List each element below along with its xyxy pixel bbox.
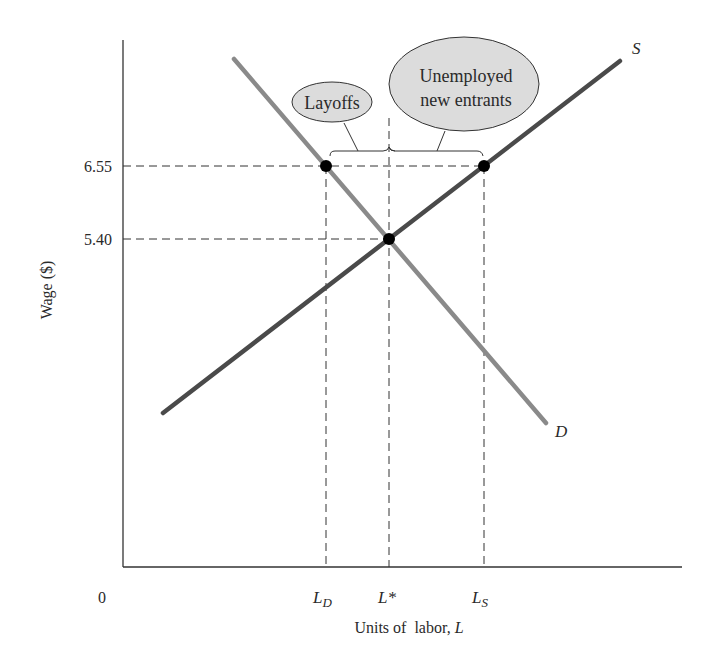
- x-axis-label-var: L: [454, 619, 464, 636]
- demand-label: D: [554, 422, 568, 441]
- x-tick-LS: LS: [471, 588, 488, 610]
- unemployed-label-line1: Unemployed: [420, 66, 513, 86]
- point-LS-655: [478, 160, 490, 172]
- unemployed-pointer: [437, 131, 445, 151]
- x-tick-LD-main: L: [312, 588, 322, 607]
- y-axis-label: Wage ($): [38, 261, 56, 320]
- x-tick-LD: LD: [312, 588, 332, 610]
- supply-label: S: [632, 39, 641, 58]
- x-axis-label: Units of labor, L: [354, 619, 463, 636]
- y-tick-540: 5.40: [84, 231, 112, 248]
- layoffs-pointer: [344, 123, 358, 151]
- unemployed-label-line2: new entrants: [420, 90, 511, 110]
- origin-label: 0: [98, 589, 106, 606]
- point-LD-655: [320, 160, 332, 172]
- layoffs-brace: [330, 147, 395, 156]
- x-tick-Lstar: L*: [377, 588, 396, 607]
- y-tick-655: 6.55: [84, 158, 112, 175]
- x-axis-label-text: Units of labor,: [354, 619, 454, 636]
- x-tick-LS-sub: S: [481, 595, 488, 610]
- dashed-guides: [123, 118, 484, 567]
- point-equilibrium: [383, 233, 395, 245]
- layoffs-label: Layoffs: [304, 93, 360, 113]
- x-tick-LS-main: L: [471, 588, 481, 607]
- labor-market-diagram: Layoffs Unemployed new entrants S D 6.55…: [0, 0, 703, 653]
- unemployed-brace: [389, 147, 483, 156]
- x-tick-LD-sub: D: [321, 595, 332, 610]
